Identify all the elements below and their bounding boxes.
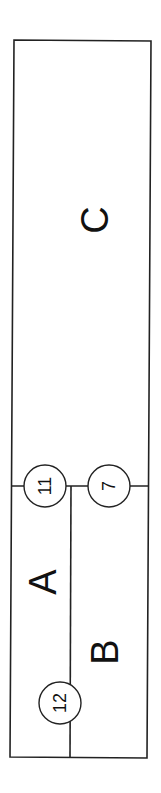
region-label-c: C [74,206,116,233]
outer-boundary [10,40,151,758]
region-label-a: A [22,569,64,595]
svg-text:A: A [22,569,64,595]
region-label-b: B [84,639,126,664]
node-7: 7 [88,465,130,507]
svg-text:12: 12 [50,693,70,713]
node-12: 12 [39,682,81,724]
svg-text:B: B [84,639,126,664]
svg-text:11: 11 [35,477,55,496]
partition-diagram: C A B 11 7 12 [0,0,161,793]
svg-text:C: C [74,206,116,233]
svg-text:7: 7 [99,481,119,491]
node-11: 11 [24,465,66,507]
